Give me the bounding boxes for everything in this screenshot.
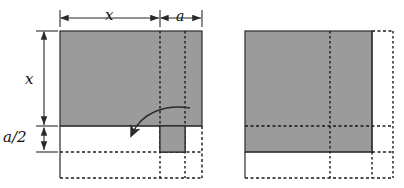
- diagram-svg: [0, 0, 404, 188]
- left-main-gray-rect: [60, 31, 202, 126]
- left-figure: [60, 31, 202, 178]
- right-main-gray-rect: [245, 31, 372, 152]
- label-top-x: x: [105, 8, 113, 23]
- left-dimension-group: [36, 31, 58, 152]
- label-top-a: a: [176, 9, 184, 23]
- diagram-canvas: x a x a/2: [0, 0, 404, 188]
- label-left-a-half: a/2: [3, 130, 27, 145]
- label-left-x: x: [25, 72, 33, 87]
- left-tab-outline: [160, 126, 185, 152]
- right-figure: [245, 31, 393, 178]
